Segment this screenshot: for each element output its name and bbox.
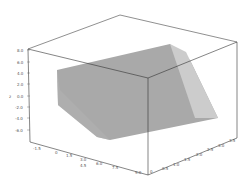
svg-text:2.5: 2.5 <box>207 147 214 152</box>
x-tick-labels: -1.5 0 1.5 3.0 4.5 6.0 7.5 9.0 <box>33 146 142 175</box>
svg-text:z: z <box>9 94 11 99</box>
surface-plot-3d: 8.0 6.0 4.0 2.0 0.0 -2.0 -4.0 -6.0 z -1.… <box>0 0 250 183</box>
y-tick-labels: 0 0.5 1.0 1.5 2.0 2.5 3.0 3.5 <box>150 138 236 174</box>
svg-text:1.0: 1.0 <box>173 162 180 167</box>
svg-text:8.0: 8.0 <box>17 48 24 53</box>
svg-text:0: 0 <box>55 150 58 155</box>
svg-text:7.5: 7.5 <box>112 165 119 170</box>
z-axis <box>27 50 30 130</box>
svg-text:6.0: 6.0 <box>17 60 24 65</box>
z-tick-labels: 8.0 6.0 4.0 2.0 0.0 -2.0 -4.0 -6.0 z <box>9 48 24 133</box>
svg-text:0.5: 0.5 <box>162 166 169 171</box>
svg-text:0.0: 0.0 <box>17 94 24 99</box>
svg-text:-1.5: -1.5 <box>33 146 41 151</box>
svg-text:2.0: 2.0 <box>196 152 203 157</box>
svg-text:1.5: 1.5 <box>66 153 73 158</box>
svg-text:3.5: 3.5 <box>229 138 236 143</box>
svg-text:4.0: 4.0 <box>17 71 24 76</box>
svg-text:3.0: 3.0 <box>80 157 87 162</box>
svg-text:1.5: 1.5 <box>184 157 191 162</box>
svg-text:9.0: 9.0 <box>135 170 142 175</box>
svg-text:-6.0: -6.0 <box>15 128 23 133</box>
svg-text:-2.0: -2.0 <box>15 105 23 110</box>
svg-text:-4.0: -4.0 <box>15 116 23 121</box>
svg-text:3.0: 3.0 <box>218 143 225 148</box>
svg-text:4.5: 4.5 <box>80 163 87 168</box>
svg-text:2.0: 2.0 <box>17 82 24 87</box>
bounding-box-back <box>28 15 237 49</box>
svg-text:6.0: 6.0 <box>96 161 103 166</box>
